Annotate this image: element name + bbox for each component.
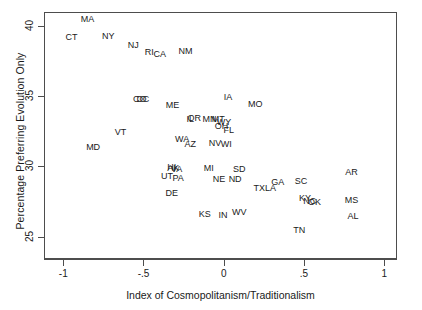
data-point-label: ME bbox=[166, 100, 180, 109]
x-tick-mark bbox=[63, 260, 64, 266]
data-point-label: SD bbox=[233, 164, 246, 173]
y-tick-label: 25 bbox=[24, 230, 35, 241]
data-point-label: WV bbox=[232, 208, 247, 217]
y-tick-label: 30 bbox=[24, 160, 35, 171]
data-point-label: NY bbox=[102, 32, 115, 41]
y-tick-label: 35 bbox=[24, 90, 35, 101]
data-point-label: IN bbox=[219, 211, 228, 220]
x-tick-label: -1 bbox=[59, 268, 68, 279]
x-tick-mark bbox=[143, 260, 144, 266]
x-tick-label: .5 bbox=[300, 268, 308, 279]
data-point-label: MO bbox=[248, 99, 263, 108]
x-tick-mark bbox=[304, 260, 305, 266]
data-point-label: CT bbox=[65, 32, 77, 41]
data-point-label: VT bbox=[115, 127, 127, 136]
data-point-label: MD bbox=[86, 143, 100, 152]
data-point-label: TN bbox=[293, 225, 305, 234]
data-point-label: OR bbox=[187, 113, 201, 122]
x-axis-line bbox=[44, 259, 397, 260]
data-point-label: MI bbox=[204, 164, 214, 173]
x-tick-label: 1 bbox=[381, 268, 387, 279]
x-tick-label: 0 bbox=[221, 268, 227, 279]
data-point-label: SC bbox=[295, 176, 308, 185]
data-point-label: NM bbox=[178, 46, 192, 55]
data-point-label: AZ bbox=[184, 139, 196, 148]
data-point-label: MA bbox=[81, 15, 95, 24]
data-point-label: DC bbox=[136, 95, 149, 104]
y-tick-label: 40 bbox=[24, 20, 35, 31]
data-point-label: MS bbox=[345, 195, 359, 204]
x-tick-mark bbox=[384, 260, 385, 266]
data-point-label: IA bbox=[224, 93, 233, 102]
data-point-label: KS bbox=[199, 210, 211, 219]
data-point-label: AR bbox=[345, 168, 358, 177]
data-point-label: ND bbox=[229, 175, 242, 184]
data-point-label: LA bbox=[265, 183, 276, 192]
data-point-label: NV bbox=[209, 138, 222, 147]
data-point-label: CA bbox=[153, 50, 166, 59]
data-point-label: UT bbox=[161, 172, 173, 181]
x-tick-mark bbox=[224, 260, 225, 266]
scatter-plot-figure: Percentage Preferring Evolution Only 253… bbox=[0, 0, 422, 310]
data-point-label: NJ bbox=[128, 40, 139, 49]
x-tick-label: -.5 bbox=[138, 268, 150, 279]
data-point-label: FL bbox=[223, 126, 234, 135]
plot-area: MACTNYNJRICANMCODCMEIAMOILORMNMTWYOHFLVT… bbox=[44, 12, 397, 259]
x-axis-title: Index of Cosmopolitanism/Traditionalism bbox=[44, 289, 397, 301]
data-point-label: WI bbox=[221, 139, 232, 148]
data-point-label: NE bbox=[213, 174, 226, 183]
data-point-label: AL bbox=[348, 211, 359, 220]
data-point-label: TX bbox=[253, 183, 265, 192]
data-point-label: PA bbox=[173, 173, 184, 182]
data-point-label: OK bbox=[308, 197, 321, 206]
data-point-label: RI bbox=[145, 48, 154, 57]
y-axis-title: Percentage Preferring Evolution Only bbox=[14, 18, 28, 265]
data-point-label: DE bbox=[165, 189, 178, 198]
